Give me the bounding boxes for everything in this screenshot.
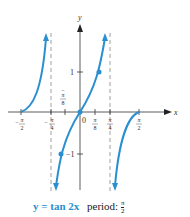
tick-neg-pi4: −π4 — [44, 117, 55, 131]
x-tick-labels: −π2 −π4 −π8 π8 π4 π2 — [15, 87, 142, 131]
svg-text:π: π — [137, 117, 141, 123]
x-axis-label: x — [173, 108, 178, 117]
y-axis-arrow-icon — [77, 24, 83, 32]
svg-text:π: π — [93, 117, 97, 123]
svg-text:8: 8 — [94, 125, 97, 131]
period-label: period: — [87, 200, 118, 212]
tick-pi2: π2 — [136, 117, 142, 131]
point-origin — [78, 110, 83, 115]
branch-right — [115, 112, 139, 186]
period-caption: period: π 2 — [87, 200, 124, 215]
point-neg-pi8 — [59, 152, 64, 157]
svg-text:π: π — [61, 92, 65, 98]
svg-text:8: 8 — [62, 100, 65, 106]
svg-text:4: 4 — [109, 125, 112, 131]
y-tick-neg-1: −1 — [66, 150, 75, 159]
svg-text:π: π — [20, 117, 24, 123]
equation-caption: y = tan 2x — [33, 200, 79, 212]
origin-label: 0 — [82, 116, 86, 125]
point-pi8 — [97, 70, 102, 75]
svg-text:−: − — [44, 119, 48, 125]
arrow-up-icon — [43, 33, 49, 41]
arrow-down-icon — [53, 183, 59, 191]
svg-text:−: − — [15, 119, 19, 125]
svg-text:π: π — [50, 117, 54, 123]
x-axis-arrow-icon — [164, 109, 172, 115]
y-tick-1: 1 — [70, 68, 74, 77]
svg-text:2: 2 — [21, 125, 24, 131]
tick-pi8: π8 — [92, 117, 98, 131]
branch-left — [21, 38, 46, 112]
svg-text:2: 2 — [138, 125, 141, 131]
arrow-down-icon — [112, 183, 118, 191]
period-denominator: 2 — [121, 208, 125, 215]
tick-pi4: π4 — [107, 117, 113, 131]
tick-neg-pi2: −π2 — [15, 117, 25, 131]
period-fraction: π 2 — [121, 200, 125, 215]
tick-neg-pi8: −π8 — [60, 87, 66, 106]
tangent-graph: y x 0 1 −1 −π2 −π4 −π8 π8 π4 π2 — [0, 0, 190, 217]
y-axis-label: y — [77, 13, 82, 22]
svg-text:π: π — [108, 117, 112, 123]
svg-text:4: 4 — [51, 125, 54, 131]
arrow-up-icon — [102, 33, 108, 41]
